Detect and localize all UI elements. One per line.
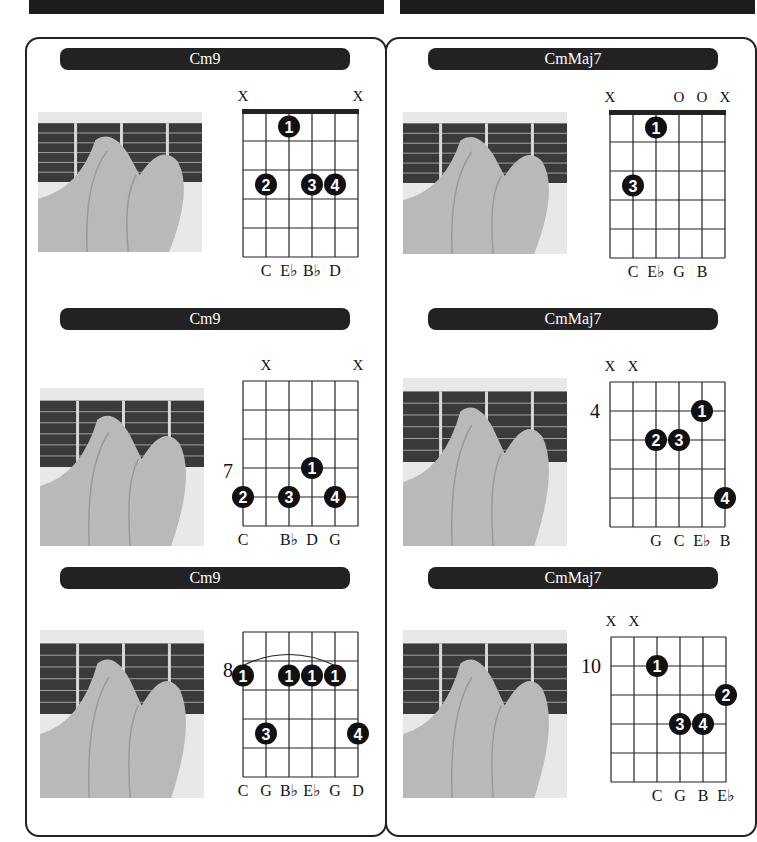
finger-dot-2: 2 bbox=[255, 174, 277, 196]
fret-position-label: 10 bbox=[581, 655, 601, 677]
svg-text:1: 1 bbox=[285, 668, 294, 685]
finger-dot-4: 4 bbox=[324, 486, 346, 508]
note-name: B♭ bbox=[280, 782, 298, 799]
svg-text:4: 4 bbox=[699, 716, 708, 733]
svg-text:1: 1 bbox=[331, 668, 340, 685]
svg-text:1: 1 bbox=[698, 403, 707, 420]
svg-text:3: 3 bbox=[262, 726, 271, 743]
finger-dot-1: 1 bbox=[278, 116, 300, 138]
note-name: E♭ bbox=[717, 787, 734, 804]
finger-dot-1: 1 bbox=[691, 400, 713, 422]
finger-dot-3: 3 bbox=[255, 723, 277, 745]
chord-title-cmmaj7-1: CmMaj7 bbox=[428, 48, 718, 70]
muted-string-icon: X bbox=[629, 613, 640, 629]
finger-dot-4: 4 bbox=[714, 487, 736, 509]
note-name: C bbox=[652, 787, 663, 804]
note-name: C bbox=[674, 532, 685, 549]
note-name: G bbox=[674, 787, 686, 804]
top-header-bar-right bbox=[400, 0, 755, 14]
note-name: E♭ bbox=[693, 532, 710, 549]
svg-text:3: 3 bbox=[285, 489, 294, 506]
fret-grid bbox=[243, 632, 358, 777]
open-string-icon: O bbox=[674, 89, 685, 105]
note-name: G bbox=[329, 531, 341, 548]
svg-text:4: 4 bbox=[331, 177, 340, 194]
chord-title-cm9-3: Cm9 bbox=[60, 567, 350, 589]
finger-dot-3: 3 bbox=[278, 486, 300, 508]
chord-diagram-cmmaj7-1: XOOX13CE♭GB bbox=[610, 113, 725, 258]
muted-string-icon: X bbox=[606, 613, 617, 629]
fret-position-label: 7 bbox=[223, 460, 233, 482]
muted-string-icon: X bbox=[261, 357, 272, 373]
note-name: B♭ bbox=[280, 531, 298, 548]
finger-dot-3: 3 bbox=[622, 175, 644, 197]
fret-grid bbox=[611, 637, 726, 782]
note-name: E♭ bbox=[647, 263, 664, 280]
muted-string-icon: X bbox=[238, 88, 249, 104]
muted-string-icon: X bbox=[628, 358, 639, 374]
svg-text:1: 1 bbox=[653, 658, 662, 675]
finger-dot-1: 1 bbox=[646, 655, 668, 677]
hand-photo-cmmaj7-1 bbox=[403, 112, 567, 254]
chord-title-cm9-1: Cm9 bbox=[60, 48, 350, 70]
svg-text:1: 1 bbox=[308, 460, 317, 477]
finger-dot-1: 1 bbox=[301, 457, 323, 479]
fret-position-label: 8 bbox=[223, 659, 233, 681]
svg-text:1: 1 bbox=[239, 668, 248, 685]
note-name: D bbox=[306, 531, 318, 548]
finger-dot-2: 2 bbox=[232, 486, 254, 508]
open-string-icon: O bbox=[697, 89, 708, 105]
note-name: G bbox=[673, 263, 685, 280]
muted-string-icon: X bbox=[605, 358, 616, 374]
chord-diagram-cm9-3: 8111134CGB♭E♭GD bbox=[243, 632, 358, 777]
note-name: C bbox=[238, 782, 249, 799]
fret-position-label: 4 bbox=[590, 400, 600, 422]
note-name: C bbox=[261, 262, 272, 279]
hand-photo-cm9-2 bbox=[40, 388, 204, 546]
svg-text:1: 1 bbox=[308, 668, 317, 685]
chord-diagram-cmmaj7-3: XX101234CGBE♭ bbox=[611, 637, 726, 782]
finger-dot-2: 2 bbox=[645, 429, 667, 451]
finger-dot-4: 4 bbox=[324, 174, 346, 196]
note-name: B bbox=[720, 532, 731, 549]
finger-dot-3: 3 bbox=[669, 713, 691, 735]
muted-string-icon: X bbox=[720, 89, 731, 105]
finger-dot-4: 4 bbox=[347, 723, 369, 745]
note-name: B♭ bbox=[303, 262, 321, 279]
svg-text:3: 3 bbox=[676, 716, 685, 733]
chord-diagram-cm9-1: XX1234CE♭B♭D bbox=[243, 112, 358, 257]
finger-dot-1: 1 bbox=[645, 117, 667, 139]
finger-dot-3: 3 bbox=[668, 429, 690, 451]
muted-string-icon: X bbox=[353, 88, 364, 104]
note-name: G bbox=[650, 532, 662, 549]
note-name: D bbox=[329, 262, 341, 279]
svg-text:3: 3 bbox=[675, 432, 684, 449]
nut-bar bbox=[609, 110, 726, 115]
chord-title-cmmaj7-3: CmMaj7 bbox=[428, 567, 718, 589]
muted-string-icon: X bbox=[605, 89, 616, 105]
svg-text:1: 1 bbox=[285, 119, 294, 136]
hand-photo-cmmaj7-3 bbox=[403, 630, 567, 798]
note-name: E♭ bbox=[280, 262, 297, 279]
finger-dot-4: 4 bbox=[692, 713, 714, 735]
svg-text:1: 1 bbox=[652, 120, 661, 137]
chord-diagram-cmmaj7-2: XX41234GCE♭B bbox=[610, 382, 725, 527]
chord-title-cmmaj7-2: CmMaj7 bbox=[428, 308, 718, 330]
svg-text:4: 4 bbox=[331, 489, 340, 506]
svg-text:2: 2 bbox=[722, 687, 731, 704]
finger-dot-1: 1 bbox=[324, 665, 346, 687]
hand-photo-cm9-1 bbox=[38, 112, 202, 252]
hand-photo-cm9-3 bbox=[40, 630, 204, 798]
finger-dot-1: 1 bbox=[232, 665, 254, 687]
top-header-bar-left bbox=[29, 0, 384, 14]
svg-text:2: 2 bbox=[652, 432, 661, 449]
finger-dot-1: 1 bbox=[301, 665, 323, 687]
muted-string-icon: X bbox=[353, 357, 364, 373]
svg-text:3: 3 bbox=[629, 178, 638, 195]
svg-text:3: 3 bbox=[308, 177, 317, 194]
note-name: D bbox=[352, 782, 364, 799]
note-name: E♭ bbox=[303, 782, 320, 799]
note-name: C bbox=[628, 263, 639, 280]
svg-text:4: 4 bbox=[354, 726, 363, 743]
note-name: B bbox=[698, 787, 709, 804]
